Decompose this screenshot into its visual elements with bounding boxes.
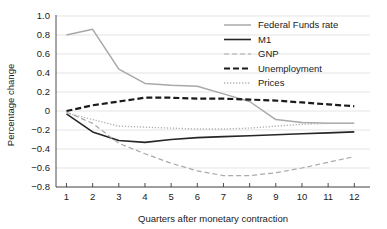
gridlines-group xyxy=(56,16,370,187)
y-tick-label: 0.6 xyxy=(37,48,50,59)
x-tick-label: 2 xyxy=(90,191,95,202)
series-group xyxy=(66,29,354,175)
legend-label: Prices xyxy=(258,77,285,88)
y-tick-label: 0 xyxy=(45,105,50,116)
chart-container: 1.00.80.60.40.20−0.2−0.4−0.6−0.8 1234567… xyxy=(0,0,387,229)
axes-group xyxy=(56,15,370,187)
legend-label: Unemployment xyxy=(258,63,322,74)
y-axis-title: Percentage change xyxy=(5,64,16,146)
series-line xyxy=(66,114,354,143)
y-tick-label: 0.2 xyxy=(37,86,50,97)
legend-label: Federal Funds rate xyxy=(258,19,338,30)
x-tick-labels-group: 123456789101112 xyxy=(64,191,360,202)
y-tick-label: 0.4 xyxy=(37,67,50,78)
x-tick-label: 3 xyxy=(116,191,121,202)
x-tick-label: 11 xyxy=(323,191,333,202)
y-tick-label: −0.8 xyxy=(31,181,50,192)
x-tick-label: 1 xyxy=(64,191,69,202)
y-tick-labels-group: 1.00.80.60.40.20−0.2−0.4−0.6−0.8 xyxy=(31,10,50,192)
x-tick-label: 10 xyxy=(297,191,308,202)
x-axis-title: Quarters after monetary contraction xyxy=(138,213,288,224)
x-tick-label: 9 xyxy=(273,191,278,202)
x-tick-label: 7 xyxy=(221,191,226,202)
x-tick-label: 8 xyxy=(247,191,252,202)
legend-label: M1 xyxy=(258,34,271,45)
y-tick-label: 0.8 xyxy=(37,29,50,40)
series-line xyxy=(66,112,354,176)
y-tick-label: 1.0 xyxy=(37,10,50,21)
series-line xyxy=(66,113,354,129)
x-tick-label: 5 xyxy=(168,191,173,202)
series-line xyxy=(66,29,354,123)
x-tick-label: 4 xyxy=(142,191,147,202)
y-tick-label: −0.6 xyxy=(31,162,50,173)
legend-label: GNP xyxy=(258,48,279,59)
x-tick-label: 6 xyxy=(195,191,200,202)
x-tick-label: 12 xyxy=(349,191,360,202)
y-tick-label: −0.2 xyxy=(31,124,50,135)
y-tick-label: −0.4 xyxy=(31,143,50,154)
series-line xyxy=(66,98,354,111)
line-chart: 1.00.80.60.40.20−0.2−0.4−0.6−0.8 1234567… xyxy=(0,0,387,229)
